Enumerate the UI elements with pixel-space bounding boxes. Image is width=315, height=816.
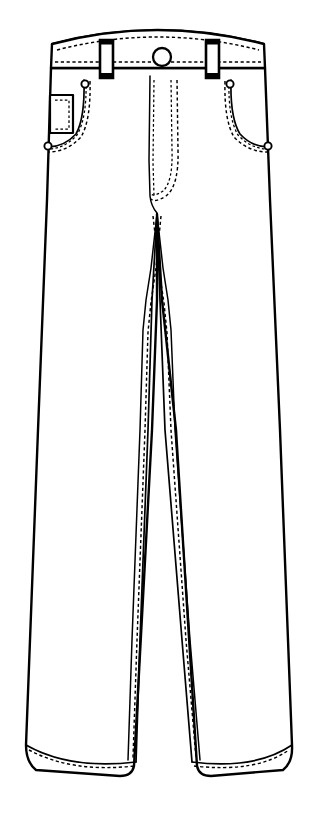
belt-loop-left-top-bartack bbox=[99, 40, 114, 45]
left-pocket-top-rivet bbox=[81, 80, 88, 87]
waist-button-shape bbox=[153, 48, 171, 66]
trouser-body bbox=[26, 68, 292, 776]
left-pocket-bottom-rivet bbox=[44, 142, 51, 149]
belt-loop-right-bottom-bartack bbox=[205, 73, 220, 78]
belt-loop-left-bottom-bartack bbox=[99, 73, 114, 78]
waist-button bbox=[153, 48, 171, 66]
belt-loop-right-top-bartack bbox=[205, 40, 220, 45]
right-pocket-top-rivet bbox=[226, 80, 233, 87]
right-pocket-bottom-rivet bbox=[264, 142, 271, 149]
garment-svg: Men's five-pocket jeans / trousers, fron… bbox=[0, 0, 315, 816]
garment-illustration: Men's five-pocket jeans / trousers, fron… bbox=[0, 0, 315, 816]
trouser-body-outline bbox=[26, 68, 292, 776]
belt-loop-left bbox=[100, 40, 113, 78]
belt-loop-right bbox=[206, 40, 219, 78]
